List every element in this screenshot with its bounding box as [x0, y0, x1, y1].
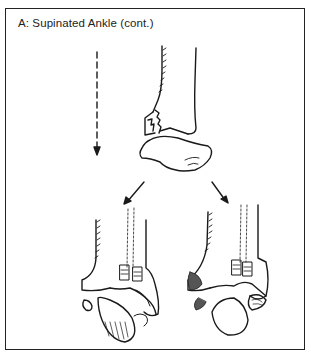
branch-arrow-left-icon: [124, 182, 144, 204]
ankle-outcome-left: [82, 208, 159, 342]
tibia-shape: [145, 46, 196, 135]
force-arrow-icon: [94, 52, 100, 155]
branch-arrow-right-icon: [212, 182, 228, 203]
ankle-illustration: [0, 0, 311, 359]
ankle-outcome-right: [188, 205, 268, 335]
talus-shape: [140, 136, 212, 171]
